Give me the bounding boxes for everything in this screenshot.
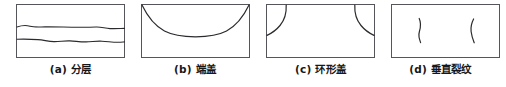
defect-figure-row: (a) 分层 (b) 端盖 (c) 环形盖 (d) 垂直裂纹 [0,0,506,87]
panel-c-caption-text: (c) 环形盖 [295,63,346,75]
panel-d-box [392,5,500,58]
panel-d-caption: (d) 垂直裂纹 [375,62,506,76]
panel-d-vertical-cracks: (d) 垂直裂纹 [375,0,506,87]
panel-d-caption-text: (d) 垂直裂纹 [409,63,471,75]
panel-c-ring-cap: (c) 环形盖 [250,0,391,87]
panel-c-caption: (c) 环形盖 [250,62,391,76]
panel-b-end-cap: (b) 端盖 [125,0,265,87]
panel-c-box [267,5,375,58]
panel-a-delamination: (a) 分层 [0,0,141,87]
panel-b-caption: (b) 端盖 [125,62,265,76]
panel-a-diagram [0,0,141,62]
panel-b-caption-text: (b) 端盖 [174,63,216,75]
panel-b-diagram [125,0,265,62]
panel-c-diagram [250,0,391,62]
panel-d-diagram [375,0,506,62]
panel-a-caption-text: (a) 分层 [50,63,92,75]
panel-b-box [142,5,250,58]
panel-a-box [17,5,125,58]
panel-a-caption: (a) 分层 [0,62,141,76]
